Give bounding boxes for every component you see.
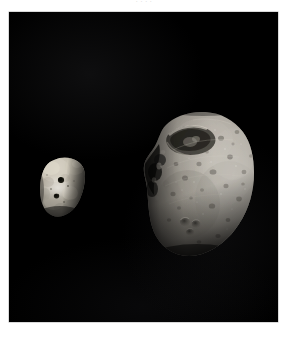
- document-page: . . . .: [0, 0, 288, 339]
- astronomy-photo-panel: [9, 12, 278, 322]
- moon-phobos: [133, 94, 263, 274]
- moon-deimos: [34, 144, 94, 220]
- deimos-body: [20, 144, 94, 238]
- phobos-body: [127, 84, 267, 308]
- clipped-caption-text: . . . .: [0, 0, 288, 4]
